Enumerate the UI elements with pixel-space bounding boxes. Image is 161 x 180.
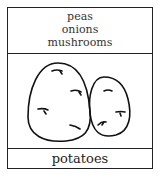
ingredient-item: onions [8, 23, 152, 36]
potato-illustration [8, 55, 152, 149]
card-label: potatoes [8, 149, 152, 168]
ingredient-list: peas onions mushrooms [8, 8, 152, 54]
potatoes-icon [8, 55, 152, 148]
ingredient-item: peas [8, 10, 152, 23]
ingredient-item: mushrooms [8, 36, 152, 49]
ingredient-card: peas onions mushrooms potatoes [7, 7, 153, 169]
